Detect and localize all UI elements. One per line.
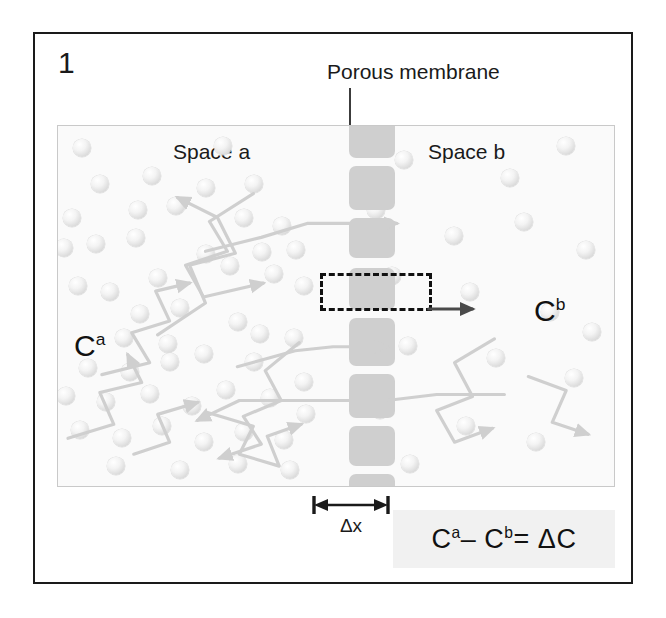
equation-term2-superscript: b — [504, 524, 513, 541]
solute-particle — [57, 239, 73, 257]
solute-particle — [445, 227, 463, 245]
solute-particle — [87, 235, 105, 253]
solute-particle — [197, 245, 215, 263]
equation-result: ΔC — [538, 524, 577, 554]
equation-term1: C — [432, 524, 452, 554]
delta-x-arrow-icon — [310, 495, 392, 515]
solute-particle — [245, 175, 263, 193]
solute-particle — [273, 217, 291, 235]
solute-particle — [121, 363, 139, 381]
solute-particle — [229, 455, 247, 473]
solute-particle — [297, 405, 315, 423]
solute-particle — [161, 353, 179, 371]
concentration-gradient-equation: Ca– Cb= ΔC — [432, 524, 577, 555]
solute-particle — [57, 387, 75, 405]
solute-particle — [153, 417, 171, 435]
equation-term1-superscript: a — [452, 524, 461, 541]
solute-particle — [171, 299, 189, 317]
solute-particle — [235, 209, 253, 227]
solute-particle — [63, 209, 81, 227]
solute-particle — [97, 393, 115, 411]
solute-particle — [115, 329, 133, 347]
solute-particle — [457, 417, 475, 435]
solute-particle — [107, 457, 125, 475]
solute-particle — [285, 329, 303, 347]
solute-particle — [287, 241, 305, 259]
solute-particle — [195, 345, 213, 363]
solute-particle — [129, 201, 147, 219]
solute-particle — [131, 305, 149, 323]
solute-particle — [295, 277, 313, 295]
solute-particle — [515, 213, 533, 231]
membrane-block — [349, 474, 395, 487]
equation-term2: C — [484, 524, 504, 554]
walk-path-5 — [186, 194, 264, 297]
pore-highlight-dashed-box — [320, 273, 432, 311]
concentration-a-base: C — [74, 329, 96, 362]
diffusion-figure: 1 Porous membrane Space a Space b — [0, 0, 666, 618]
equation-equals: = — [514, 524, 530, 554]
solute-particle — [71, 421, 89, 439]
solute-particle — [113, 429, 131, 447]
solute-particle — [127, 229, 145, 247]
solute-particle — [69, 277, 87, 295]
solute-particle — [487, 349, 505, 367]
concentration-b-base: C — [534, 294, 556, 327]
concentration-b-label: Cb — [534, 296, 565, 326]
delta-x-dimension: Δx — [310, 495, 392, 541]
membrane-block — [349, 166, 395, 210]
solute-particle — [565, 369, 583, 387]
solute-particle — [251, 325, 269, 343]
space-b-label: Space b — [428, 140, 505, 164]
solute-particle — [91, 175, 109, 193]
solute-particle — [395, 151, 413, 169]
membrane-block — [349, 374, 395, 418]
solute-particle — [101, 283, 119, 301]
solute-particle — [261, 389, 279, 407]
solute-particle — [195, 433, 213, 451]
solute-particle — [401, 455, 419, 473]
porous-membrane-caption: Porous membrane — [327, 60, 500, 84]
solute-particle — [275, 431, 293, 449]
concentration-a-superscript: a — [96, 329, 106, 349]
solute-particle — [171, 461, 189, 479]
concentration-a-label: Ca — [74, 331, 105, 361]
solute-particle — [295, 373, 313, 391]
solute-particle — [245, 353, 263, 371]
diagram-inner-panel: Space a Space b — [57, 125, 615, 487]
solute-particle — [229, 313, 247, 331]
solute-particle — [265, 265, 283, 283]
solute-particle — [197, 179, 215, 197]
solute-particle — [167, 197, 185, 215]
solute-particle — [281, 461, 299, 479]
solute-particle — [577, 241, 595, 259]
delta-x-label: Δx — [310, 515, 392, 537]
membrane-block — [349, 318, 395, 366]
solute-particle — [221, 257, 239, 275]
solute-particle — [214, 137, 232, 155]
solute-particle — [583, 323, 601, 341]
solute-particle — [217, 381, 235, 399]
solute-particle — [149, 269, 167, 287]
solute-particle — [399, 337, 417, 355]
solute-particle — [183, 397, 201, 415]
solute-particle — [557, 137, 575, 155]
membrane-block — [349, 218, 395, 258]
space-a-label: Space a — [173, 140, 250, 164]
concentration-b-superscript: b — [556, 294, 566, 314]
solute-particle — [501, 169, 519, 187]
solute-particle — [159, 335, 177, 353]
solute-particle — [253, 243, 271, 261]
equation-minus: – — [461, 524, 477, 554]
membrane-block — [349, 426, 395, 466]
concentration-gradient-equation-box: Ca– Cb= ΔC — [393, 510, 615, 568]
solute-particle — [235, 423, 253, 441]
solute-particle — [141, 385, 159, 403]
solute-particle — [143, 167, 161, 185]
solute-particle — [461, 283, 479, 301]
solute-particle — [73, 139, 91, 157]
membrane-block — [349, 125, 395, 158]
panel-number-label: 1 — [58, 48, 75, 78]
solute-particle — [527, 433, 545, 451]
